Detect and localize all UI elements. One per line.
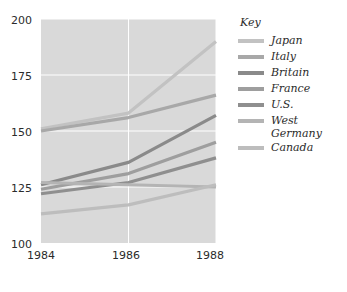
y-axis-tick-label: 125 — [2, 182, 32, 195]
legend-item-label: Britain — [271, 66, 309, 79]
legend-color-swatch — [238, 87, 264, 91]
legend-color-swatch — [238, 55, 264, 59]
legend-item-label: Japan — [271, 34, 303, 47]
legend-item-label: France — [271, 82, 310, 95]
legend-item[interactable]: Britain — [238, 66, 346, 81]
legend-item-label: Italy — [271, 50, 296, 63]
legend-item-label: West Germany — [271, 114, 346, 140]
chart-legend: Key JapanItalyBritainFranceU.S.West Germ… — [238, 16, 346, 157]
legend-item-label: Canada — [271, 141, 313, 154]
legend-color-swatch — [238, 103, 264, 107]
legend-item[interactable]: Italy — [238, 50, 346, 65]
legend-item[interactable]: France — [238, 82, 346, 97]
legend-item[interactable]: Canada — [238, 141, 346, 156]
legend-title: Key — [240, 16, 346, 29]
legend-color-swatch — [238, 39, 264, 43]
x-axis-tick-label: 1988 — [190, 249, 230, 262]
legend-item-label: U.S. — [271, 98, 293, 111]
legend-item[interactable]: West Germany — [238, 114, 346, 140]
legend-color-swatch — [238, 119, 264, 123]
y-axis-tick-label: 175 — [2, 70, 32, 83]
x-axis-tick-label: 1984 — [21, 249, 61, 262]
y-axis-tick-label: 200 — [2, 14, 32, 27]
legend-color-swatch — [238, 146, 264, 150]
y-axis-tick-label: 150 — [2, 126, 32, 139]
x-axis-tick-label: 1986 — [106, 249, 146, 262]
legend-item-list: JapanItalyBritainFranceU.S.West GermanyC… — [238, 34, 346, 156]
legend-item[interactable]: U.S. — [238, 98, 346, 113]
line-chart: 200 175 150 125 100 1984 1986 1988 Key J… — [0, 0, 347, 292]
legend-item[interactable]: Japan — [238, 34, 346, 49]
legend-color-swatch — [238, 71, 264, 75]
